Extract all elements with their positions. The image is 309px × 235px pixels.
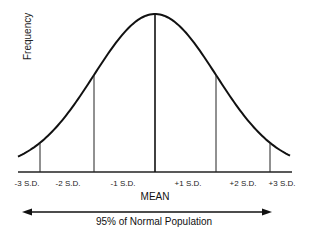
tick-label-plus-2sd: +2 S.D. xyxy=(230,179,257,188)
arrow-left-head-icon xyxy=(22,209,32,216)
tick-label-minus-1sd: -1 S.D. xyxy=(111,179,136,188)
tick-label-plus-1sd: +1 S.D. xyxy=(175,179,202,188)
mean-label: MEAN xyxy=(141,191,170,202)
y-axis-label: Frequency xyxy=(22,13,33,60)
arrow-right-head-icon xyxy=(262,209,272,216)
normal-curve xyxy=(18,14,290,157)
tick-label-minus-2sd: -2 S.D. xyxy=(56,179,81,188)
range-label: 95% of Normal Population xyxy=(96,216,212,227)
tick-label-plus-3sd: +3 S.D. xyxy=(269,179,296,188)
tick-label-minus-3sd: -3 S.D. xyxy=(15,179,40,188)
